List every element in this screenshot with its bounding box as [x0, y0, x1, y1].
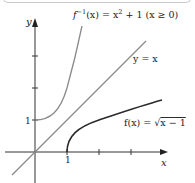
inverse-curve-label: f−1(x) = x2 + 1 (x ≥ 0): [72, 8, 178, 20]
function-curve-label: f(x) = √x − 1: [124, 117, 186, 128]
y-axis-arrow-icon: [32, 18, 38, 27]
function-graph: y x 1 1 f−1(x) = x2 + 1 (x ≥ 0) y = x f(…: [0, 0, 195, 183]
x-axis-label: x: [161, 157, 167, 168]
y-tick-label-1: 1: [25, 116, 31, 126]
identity-line: [12, 41, 146, 175]
x-axis-arrow-icon: [160, 149, 168, 155]
x-axis: [5, 149, 168, 155]
y-axis: [32, 18, 38, 183]
identity-line-label: y = x: [132, 53, 158, 64]
y-axis-label: y: [25, 16, 32, 27]
inverse-curve: [35, 26, 82, 120]
x-tick-label-1: 1: [65, 155, 71, 165]
